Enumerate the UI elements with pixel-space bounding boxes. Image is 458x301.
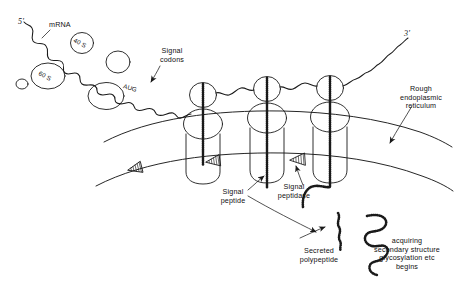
leader-secreted-long xyxy=(248,196,316,232)
free-subunit-b xyxy=(88,83,124,110)
label-rough-er: Roughendoplasmicreticulum xyxy=(388,85,454,111)
secreted-chain-small xyxy=(338,213,341,251)
signal-peptide-line-2: peptide xyxy=(221,196,246,205)
label-mrna: mRNA xyxy=(49,21,71,30)
annotation-leaders xyxy=(42,30,412,238)
ribosome-1 xyxy=(184,83,223,185)
label-acquiring-structure: acquiringsecondary structureglycosylatio… xyxy=(358,237,456,271)
label-signal-peptide: Signalpeptide xyxy=(210,188,256,205)
label-signal-codons: Signalcodons xyxy=(149,47,195,64)
mrna-strand xyxy=(24,22,191,118)
er-membrane xyxy=(96,111,453,191)
acquiring-line-4: begins xyxy=(396,262,418,271)
secreted-line-2: polypeptide xyxy=(300,255,338,264)
ribosome-2 xyxy=(248,77,287,189)
signal-codons-line-2: codons xyxy=(160,55,184,64)
label-5-prime: 5' xyxy=(18,18,24,27)
rough-er-line-3: reticulum xyxy=(406,101,437,110)
free-subunit-a xyxy=(106,51,130,73)
signal-peptidase-arrowheads xyxy=(127,153,306,175)
leader-mrna xyxy=(42,30,50,38)
figure-canvas: 5' mRNA 3' 40 S 60 S AUG Signalcodons Ro… xyxy=(0,0,458,301)
leader-signal-codons xyxy=(151,66,160,82)
free-subunit-c xyxy=(16,79,28,89)
signal-peptidase-line-2: peptidase xyxy=(278,191,311,200)
label-secreted-polypeptide: Secretedpolypeptide xyxy=(288,247,350,264)
mrna-over-ribosomes xyxy=(216,38,408,95)
label-3-prime: 3' xyxy=(404,30,410,39)
label-signal-peptidase: Signalpeptidase xyxy=(266,183,322,200)
leader-secreted-short xyxy=(300,227,325,238)
